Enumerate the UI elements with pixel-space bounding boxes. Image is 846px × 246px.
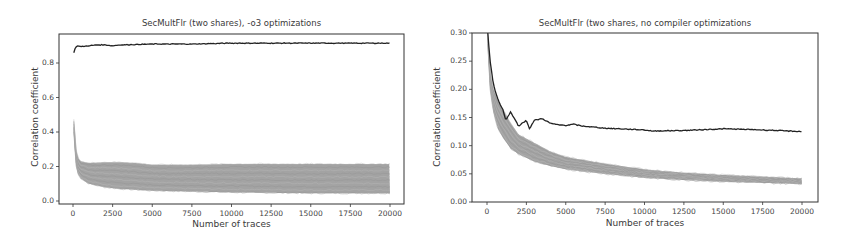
xtick-label: 20000	[782, 207, 822, 216]
ytick-label: 0.10	[437, 141, 467, 150]
xtick-label: 12500	[251, 209, 291, 218]
ytick-label: 0.25	[437, 56, 467, 65]
xtick-label: 2500	[506, 207, 546, 216]
right-chart-panel: SecMultFlr (two shares, no compiler opti…	[423, 0, 846, 246]
ytick-label: 0.20	[437, 84, 467, 93]
left-chart-title: SecMultFlr (two shares), -o3 optimizatio…	[59, 18, 404, 28]
left-chart-panel: SecMultFlr (two shares), -o3 optimizatio…	[0, 0, 423, 246]
ytick-label: 0.00	[437, 197, 467, 206]
xtick-label: 15000	[703, 207, 743, 216]
xtick-label: 5000	[546, 207, 586, 216]
right-chart-xlabel: Number of traces	[472, 218, 818, 228]
xtick-label: 10000	[212, 209, 252, 218]
xtick-label: 5000	[132, 209, 172, 218]
xtick-label: 17500	[330, 209, 370, 218]
xtick-label: 17500	[743, 207, 783, 216]
left-chart-xlabel: Number of traces	[59, 219, 404, 229]
ytick-label: 0.8	[24, 58, 54, 67]
xtick-label: 12500	[664, 207, 704, 216]
xtick-label: 0	[467, 207, 507, 216]
xtick-label: 2500	[93, 209, 133, 218]
xtick-label: 10000	[625, 207, 665, 216]
ytick-label: 0.6	[24, 93, 54, 102]
xtick-label: 7500	[585, 207, 625, 216]
right-chart-title: SecMultFlr (two shares, no compiler opti…	[472, 18, 818, 28]
xtick-label: 15000	[291, 209, 331, 218]
xtick-label: 7500	[172, 209, 212, 218]
xtick-label: 0	[53, 209, 93, 218]
ytick-label: 0.05	[437, 169, 467, 178]
ytick-label: 0.30	[437, 28, 467, 37]
ytick-label: 0.2	[24, 162, 54, 171]
xtick-label: 20000	[370, 209, 410, 218]
ytick-label: 0.4	[24, 127, 54, 136]
ytick-label: 0.15	[437, 113, 467, 122]
ytick-label: 0.0	[24, 196, 54, 205]
